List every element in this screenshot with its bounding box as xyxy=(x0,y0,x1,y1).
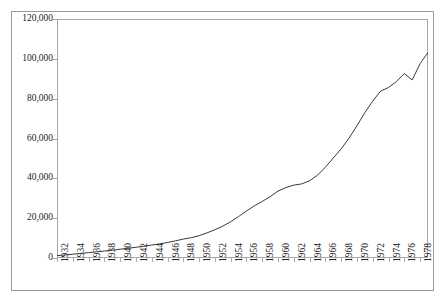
x-axis-tick-mark xyxy=(215,258,216,262)
x-axis-tick-mark xyxy=(120,258,121,262)
x-axis-tick-mark xyxy=(183,258,184,262)
x-axis-tick-mark xyxy=(389,258,390,262)
x-axis-tick-mark xyxy=(310,258,311,262)
x-axis-tick-mark xyxy=(199,258,200,262)
x-axis-tick-mark xyxy=(357,258,358,262)
x-axis-tick-mark xyxy=(89,258,90,262)
x-axis-tick-mark xyxy=(104,258,105,262)
x-axis-tick-mark xyxy=(57,258,58,262)
x-axis-tick-mark xyxy=(373,258,374,262)
x-axis-tick-mark xyxy=(246,258,247,262)
chart-container: 120,000100,00080,00060,00040,00020,0000 … xyxy=(0,0,447,307)
x-axis-tick-mark xyxy=(341,258,342,262)
x-axis-tick-mark xyxy=(168,258,169,262)
x-axis-tick-mark xyxy=(231,258,232,262)
x-axis-tick-mark xyxy=(136,258,137,262)
x-axis-tick-mark xyxy=(262,258,263,262)
x-axis-tick-mark xyxy=(404,258,405,262)
series-line-path xyxy=(57,52,428,255)
x-axis-tick-mark xyxy=(152,258,153,262)
x-axis-tick-mark xyxy=(325,258,326,262)
x-axis-tick-mark xyxy=(294,258,295,262)
x-axis-tick-mark xyxy=(278,258,279,262)
x-axis-tick-mark xyxy=(73,258,74,262)
line-series-svg xyxy=(57,19,428,258)
x-axis-tick-mark xyxy=(420,258,421,262)
